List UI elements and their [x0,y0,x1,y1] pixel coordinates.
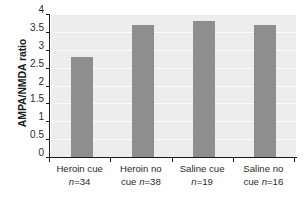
y-tick-mark [46,14,50,15]
x-category-label-line1: Heroin no [112,163,169,176]
y-tick-label: 1.5 [16,94,44,104]
bar [193,21,215,157]
y-tick-mark [46,103,50,104]
y-tick-mark [46,86,50,87]
x-tick-mark [233,158,234,162]
x-axis-line [49,157,297,158]
x-category-label: Saline cuen=19 [174,163,231,188]
x-tick-mark [172,158,173,162]
x-tick-mark [294,158,295,162]
x-category-label: Heroin cuen=34 [51,163,108,188]
y-tick-mark [46,121,50,122]
y-tick-label: 0 [16,148,44,158]
y-tick-mark [46,139,50,140]
plot-area [51,14,296,157]
bar [71,57,93,157]
sample-size-symbol: n [262,176,267,187]
y-tick-label: 0.5 [16,130,44,140]
bar [254,25,276,157]
bar [132,25,154,157]
y-tick-mark [46,50,50,51]
x-category-label: Heroin nocue n=38 [112,163,169,188]
x-category-label-line2: cue n=38 [112,176,169,189]
x-category-label: Saline nocue n=16 [235,163,292,188]
y-tick-label: 2.5 [16,59,44,69]
y-tick-label: 3 [16,41,44,51]
y-tick-label: 4 [16,5,44,15]
y-tick-mark [46,68,50,69]
y-tick-label: 2 [16,77,44,87]
x-category-label-line2: n=19 [174,176,231,189]
bar-chart-figure: AMPA/NMDA ratio 00.511.522.533.54 Heroin… [0,0,304,198]
y-tick-mark [46,32,50,33]
x-category-label-line1: Saline no [235,163,292,176]
y-tick-label: 1 [16,112,44,122]
x-axis-category-labels: Heroin cuen=34Heroin nocue n=38Saline cu… [49,163,297,195]
sample-size-symbol: n [191,176,196,187]
x-category-label-line2: n=34 [51,176,108,189]
sample-size-symbol: n [139,176,144,187]
x-tick-mark [49,158,50,162]
x-category-label-line1: Saline cue [174,163,231,176]
x-tick-mark [110,158,111,162]
y-tick-label: 3.5 [16,23,44,33]
x-category-label-line1: Heroin cue [51,163,108,176]
gridline [51,14,296,15]
x-category-label-line2: cue n=16 [235,176,292,189]
sample-size-symbol: n [69,176,74,187]
y-axis-tick-labels: 00.511.522.533.54 [16,10,44,158]
